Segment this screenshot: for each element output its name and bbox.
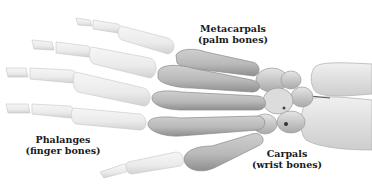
metacarpals-common-name: (palm bones) — [193, 34, 273, 45]
metacarpal-bones — [148, 49, 266, 171]
phalanges-name: Phalanges — [22, 134, 104, 145]
forearm-bones — [301, 63, 372, 150]
metacarpals-label: Metacarpals (palm bones) — [193, 23, 273, 45]
phalanges-label: Phalanges (finger bones) — [22, 134, 104, 156]
carpals-common-name: (wrist bones) — [249, 159, 325, 170]
metacarpals-name: Metacarpals — [193, 23, 273, 34]
carpals-name: Carpals — [249, 148, 325, 159]
phalanges-common-name: (finger bones) — [22, 145, 104, 156]
hand-bones-diagram: Metacarpals (palm bones) Phalanges (fing… — [0, 0, 372, 187]
carpals-label: Carpals (wrist bones) — [249, 148, 325, 170]
